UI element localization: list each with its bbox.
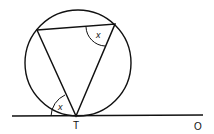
circle bbox=[25, 10, 131, 116]
inscribed-triangle bbox=[37, 24, 115, 116]
angle-label-inscribed: x bbox=[95, 30, 101, 40]
angle-label-tangent-chord: x bbox=[57, 102, 63, 112]
diagram-canvas: x x T O bbox=[0, 0, 214, 134]
point-label-o: O bbox=[194, 121, 202, 132]
tangent-line bbox=[12, 115, 203, 116]
point-label-t: T bbox=[73, 120, 79, 131]
